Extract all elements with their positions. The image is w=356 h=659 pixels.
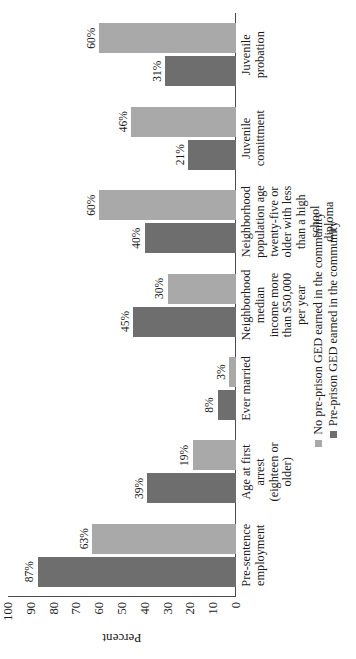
category-label-line: twenty-five or [268,181,282,262]
rotated-chart-frame: Percent 87%63%39%19%8%3%45%30%40%60%21%4… [0,0,356,659]
category-label-line: Neighborhood [240,264,254,345]
category-label: Juvenileprobation [240,13,310,96]
bar[interactable]: 30% [168,274,236,304]
category-label-line: population age [254,181,268,262]
category-label: Ever married [240,347,310,430]
y-tick-label: 70 [70,602,83,615]
bar-chart: Percent 87%63%39%19%8%3%45%30%40%60%21%4… [0,0,356,659]
bar[interactable]: 60% [99,23,236,53]
bar-value-label: 39% [134,478,146,499]
bar-value-label: 21% [175,144,187,165]
category-label-line: employment [254,515,268,596]
y-axis-title-text: Percent [103,630,142,646]
y-tick-label: 90 [25,602,38,615]
bar-value-label: 3% [216,364,228,379]
legend-item[interactable]: No pre-prison GED earned in the communit… [312,212,326,447]
bar-group: 21%46% [8,96,236,179]
chart-legend: No pre-prison GED earned in the communit… [312,0,340,659]
legend-swatch-icon [315,440,322,447]
bar[interactable]: 3% [229,357,236,387]
y-tick-label: 10 [207,602,220,615]
category-label-line: per year [295,264,309,345]
bar-group: 87%63% [8,514,236,597]
y-tick-label: 20 [184,602,197,615]
bar-value-label: 40% [131,228,143,249]
bar[interactable]: 63% [92,524,236,554]
category-label: Age at first arrest(eighteen or older) [240,430,310,513]
category-label-line: income more [268,264,282,345]
bar[interactable]: 39% [147,473,236,503]
bar-value-label: 87% [24,561,36,582]
category-label-line: than $50,000 [281,264,295,345]
category-label-line: Neighborhood [240,181,254,262]
bar-group: 39%19% [8,430,236,513]
category-label-line: Juvenile [240,14,254,95]
y-axis-title: Percent [8,629,236,647]
bar-value-label: 46% [118,111,130,132]
category-label: Neighborhoodpopulation agetwenty-five or… [240,180,310,263]
bar[interactable]: 60% [99,190,236,220]
y-tick-label: 50 [116,602,129,615]
category-label: Pre-sentenceemployment [240,514,310,597]
category-label-line: Age at first arrest [240,431,268,512]
y-tick-label: 100 [2,602,15,621]
bar[interactable]: 31% [165,56,236,86]
y-tick-label: 30 [161,602,174,615]
y-tick-label: 0 [230,602,243,608]
bar-group: 8%3% [8,347,236,430]
legend-swatch-icon [330,431,337,438]
legend-label: Pre-prison GED earned in the community [327,221,341,426]
bar[interactable]: 40% [145,223,236,253]
bar-value-label: 45% [120,311,132,332]
bar[interactable]: 45% [133,307,236,337]
legend-item[interactable]: Pre-prison GED earned in the community [327,221,341,438]
bar-value-label: 8% [204,397,216,412]
bar-value-label: 31% [152,61,164,82]
bar-value-label: 63% [79,528,91,549]
category-label-line: median [254,264,268,345]
bar-value-label: 60% [86,195,98,216]
category-label-line: (eighteen or older) [268,431,296,512]
bar-value-label: 60% [86,28,98,49]
bar-value-label: 30% [154,278,166,299]
bar-groups: 87%63%39%19%8%3%45%30%40%60%21%46%31%60% [8,13,236,597]
y-tick-label: 60 [93,602,106,615]
bar[interactable]: 87% [38,557,236,587]
category-label-line: Ever married [240,348,254,429]
y-tick-label: 80 [47,602,60,615]
bar[interactable]: 8% [218,390,236,420]
category-label-line: Juvenile [240,97,254,178]
category-label-line: Pre-sentence [240,515,254,596]
bar-group: 45%30% [8,263,236,346]
bar[interactable]: 46% [131,107,236,137]
category-labels: Pre-sentenceemploymentAge at first arres… [240,13,310,597]
bar-group: 40%60% [8,180,236,263]
y-tick-label: 40 [139,602,152,615]
category-label-line: probation [254,14,268,95]
bar[interactable]: 21% [188,140,236,170]
bar-value-label: 19% [179,445,191,466]
legend-label: No pre-prison GED earned in the communit… [312,212,326,435]
plot-area: 87%63%39%19%8%3%45%30%40%60%21%46%31%60%… [8,13,236,597]
bar[interactable]: 19% [193,440,236,470]
category-label: Juvenilecomittment [240,96,310,179]
category-label: Neighborhoodmedianincome morethan $50,00… [240,263,310,346]
bar-group: 31%60% [8,13,236,96]
category-label-line: comittment [254,97,268,178]
category-label-line: older with less [281,181,295,262]
